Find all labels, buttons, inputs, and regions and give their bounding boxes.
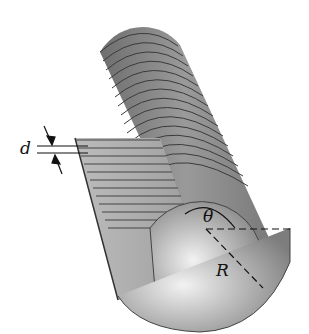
label-theta: θ [203, 208, 213, 225]
label-d: d [20, 140, 31, 157]
capacitor-diagram [0, 0, 309, 334]
label-R: R [216, 262, 229, 279]
